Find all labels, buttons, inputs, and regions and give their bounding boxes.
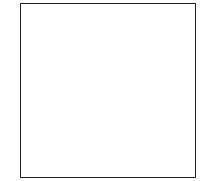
knitting-chart-grid bbox=[20, 3, 196, 178]
